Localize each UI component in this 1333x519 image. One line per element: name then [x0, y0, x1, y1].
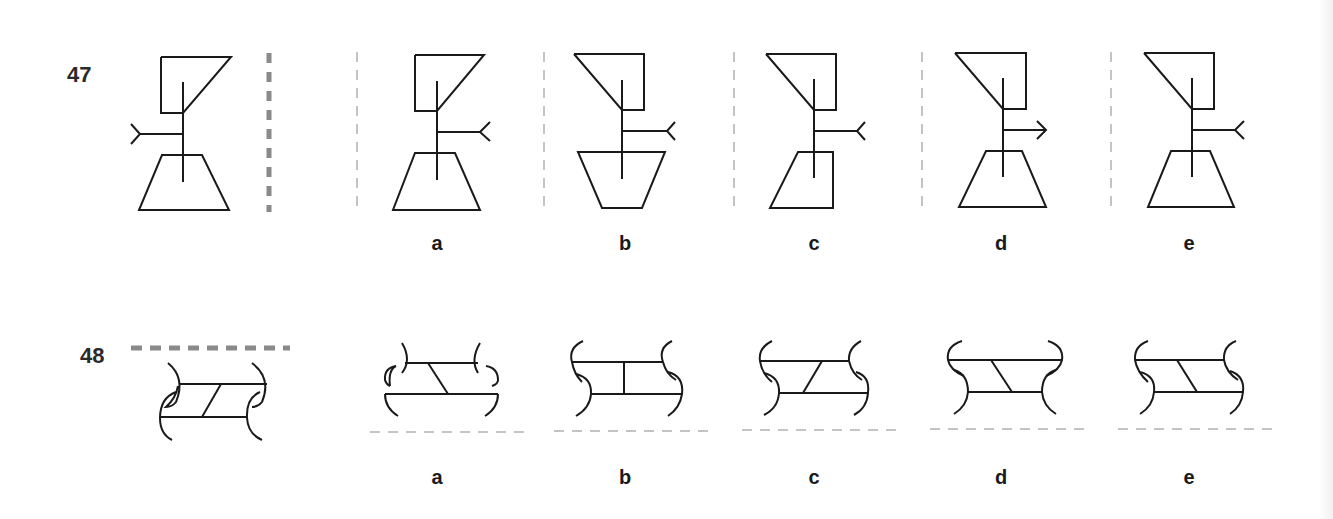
- option-48-d-label[interactable]: d: [986, 466, 1016, 489]
- option-48-e[interactable]: [1110, 340, 1300, 450]
- option-48-e-label[interactable]: e: [1174, 466, 1204, 489]
- option-48-c[interactable]: [730, 340, 920, 450]
- option-48-b[interactable]: [540, 340, 730, 450]
- option-48-a-label[interactable]: a: [422, 466, 452, 489]
- option-48-c-label[interactable]: c: [799, 466, 829, 489]
- option-48-d[interactable]: [920, 340, 1110, 450]
- option-48-a[interactable]: [360, 340, 540, 450]
- option-48-b-label[interactable]: b: [610, 466, 640, 489]
